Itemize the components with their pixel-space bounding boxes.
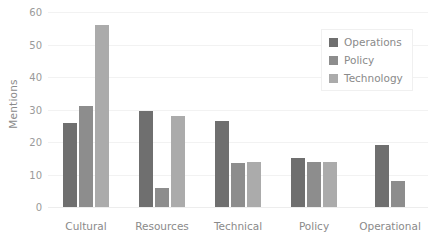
y-axis-tick-label: 0 bbox=[36, 202, 42, 213]
legend-swatch-icon bbox=[329, 56, 338, 65]
y-axis-tick-label: 20 bbox=[29, 137, 42, 148]
bar bbox=[323, 162, 337, 208]
x-axis-tick-label: Technical bbox=[214, 220, 262, 232]
bar bbox=[375, 145, 389, 207]
bar bbox=[291, 158, 305, 207]
bar-group bbox=[200, 12, 276, 207]
bar bbox=[215, 121, 229, 207]
legend-item[interactable]: Operations bbox=[329, 36, 403, 48]
x-axis-tick-label: Policy bbox=[299, 220, 329, 232]
legend-label: Operations bbox=[344, 36, 402, 48]
legend-item[interactable]: Technology bbox=[329, 72, 403, 84]
y-axis-title-label: Mentions bbox=[7, 79, 19, 128]
legend-label: Policy bbox=[344, 54, 374, 66]
legend: OperationsPolicyTechnology bbox=[321, 29, 413, 91]
y-axis-tick-label: 30 bbox=[29, 104, 42, 115]
x-axis-tick-label: Resources bbox=[135, 220, 189, 232]
y-axis-tick-label: 40 bbox=[29, 72, 42, 83]
legend-swatch-icon bbox=[329, 74, 338, 83]
bar bbox=[247, 162, 261, 208]
gridline bbox=[48, 207, 428, 208]
bar bbox=[139, 111, 153, 207]
bar-chart: Mentions 0102030405060 CulturalResources… bbox=[0, 0, 438, 237]
bar bbox=[307, 162, 321, 208]
x-axis-tick-label: Operational bbox=[359, 220, 421, 232]
x-axis-tick-label: Cultural bbox=[65, 220, 106, 232]
bar bbox=[79, 106, 93, 207]
legend-item[interactable]: Policy bbox=[329, 54, 403, 66]
bar bbox=[231, 163, 245, 207]
bar bbox=[155, 188, 169, 208]
bar bbox=[171, 116, 185, 207]
y-axis-title: Mentions bbox=[2, 0, 24, 207]
bar bbox=[63, 123, 77, 208]
y-axis-tick-label: 60 bbox=[29, 7, 42, 18]
legend-swatch-icon bbox=[329, 38, 338, 47]
legend-label: Technology bbox=[344, 72, 403, 84]
bar bbox=[391, 181, 405, 207]
y-axis-tick-label: 10 bbox=[29, 169, 42, 180]
bar-group bbox=[124, 12, 200, 207]
bar bbox=[95, 25, 109, 207]
y-axis-tick-label: 50 bbox=[29, 39, 42, 50]
bar-group bbox=[48, 12, 124, 207]
